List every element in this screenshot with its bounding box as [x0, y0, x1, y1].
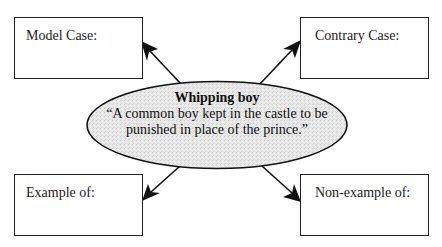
contrary-case-box: Contrary Case:: [300, 17, 429, 79]
contrary-case-label: Contrary Case:: [315, 28, 399, 44]
non-example-of-box: Non-example of:: [300, 174, 429, 236]
example-of-box: Example of:: [14, 174, 143, 236]
model-case-label: Model Case:: [26, 28, 97, 44]
model-case-box: Model Case:: [14, 17, 143, 79]
center-concept: Whipping boy “A common boy kept in the c…: [97, 90, 337, 138]
non-example-of-label: Non-example of:: [315, 185, 410, 201]
arrow-to-model-case: [141, 41, 181, 84]
arrow-to-non-example-of: [262, 166, 301, 202]
concept-map-diagram: Whipping boy “A common boy kept in the c…: [0, 0, 442, 247]
concept-definition: “A common boy kept in the castle to be p…: [97, 106, 337, 138]
example-of-label: Example of:: [26, 185, 95, 201]
concept-term: Whipping boy: [97, 90, 337, 106]
arrow-to-contrary-case: [259, 40, 301, 85]
arrowhead-icon: [141, 41, 158, 61]
arrowhead-icon: [283, 40, 301, 58]
arrow-to-example-of: [142, 166, 180, 201]
